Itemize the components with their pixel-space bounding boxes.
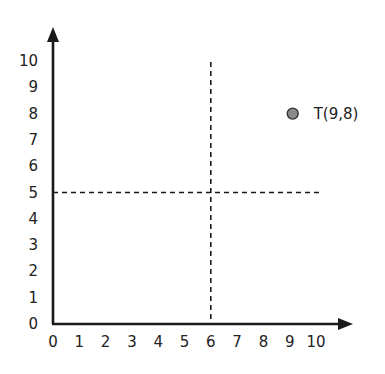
x-tick-label: 8 (259, 333, 269, 351)
x-axis-arrow-icon (338, 318, 353, 330)
x-tick-label: 9 (285, 333, 295, 351)
y-axis-arrow-icon (47, 27, 59, 42)
y-tick-label: 4 (28, 210, 38, 228)
x-tick-labels: 012345678910 (48, 333, 325, 351)
y-tick-label: 7 (28, 131, 38, 149)
x-tick-label: 4 (153, 333, 163, 351)
y-tick-labels: 012345678910 (19, 52, 38, 333)
y-tick-label: 2 (28, 262, 38, 280)
y-tick-label: 5 (28, 184, 38, 202)
axes (47, 27, 353, 330)
y-tick-label: 1 (28, 289, 38, 307)
y-tick-label: 8 (28, 105, 38, 123)
x-tick-label: 1 (75, 333, 85, 351)
y-tick-label: 3 (28, 236, 38, 254)
point-label: T(9,8) (313, 105, 359, 123)
y-tick-label: 9 (28, 78, 38, 96)
y-tick-label: 10 (19, 52, 38, 70)
coordinate-plane: 012345678910 012345678910 T(9,8) (0, 0, 385, 374)
x-tick-label: 5 (180, 333, 190, 351)
y-tick-label: 6 (28, 157, 38, 175)
x-tick-label: 0 (48, 333, 58, 351)
point-marker-icon (287, 108, 298, 119)
data-points: T(9,8) (287, 105, 358, 123)
x-tick-label: 6 (206, 333, 216, 351)
x-tick-label: 7 (232, 333, 242, 351)
reference-lines (53, 62, 319, 324)
y-tick-label: 0 (28, 315, 38, 333)
x-tick-label: 10 (306, 333, 325, 351)
x-tick-label: 2 (101, 333, 111, 351)
x-tick-label: 3 (127, 333, 137, 351)
